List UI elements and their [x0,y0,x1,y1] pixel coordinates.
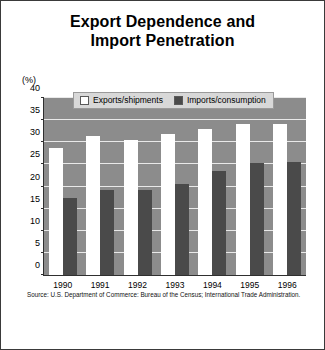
bar-group: 1994 [194,98,231,275]
bar-exports [273,124,287,275]
x-axis-tick-label: 1994 [203,280,222,290]
bar-imports [175,184,189,275]
white-square-icon [80,96,89,105]
legend-item-exports: Exports/shipments [80,95,163,105]
chart-figure: Export Dependence and Import Penetration… [0,0,325,350]
bar-imports [287,162,301,275]
plot-area: 0510152025303540 19901991199219931994199… [43,98,306,276]
bar-imports [100,190,114,275]
y-axis-tick-label: 25 [30,149,40,159]
y-axis-tick-label: 10 [30,216,40,226]
bar-groups: 1990199119921993199419951996 [44,98,306,275]
bar-group: 1990 [44,98,81,275]
y-axis-tick-label: 20 [30,172,40,182]
title-line-1: Export Dependence and [1,12,324,31]
x-axis-tick-label: 1992 [128,280,147,290]
bar-exports [86,136,100,275]
chart-title: Export Dependence and Import Penetration [1,1,324,50]
y-axis-tick-label: 15 [30,194,40,204]
bar-exports [161,134,175,275]
source-note: Source: U.S. Department of Commerce: Bur… [27,291,300,298]
bar-imports [63,198,77,275]
title-line-2: Import Penetration [1,31,324,50]
x-axis-tick-label: 1993 [166,280,185,290]
dark-square-icon [174,96,183,105]
bar-group: 1991 [81,98,118,275]
chart-legend: Exports/shipments Imports/consumption [73,92,274,109]
legend-label-exports: Exports/shipments [93,95,163,105]
bar-imports [138,190,152,275]
bar-group: 1992 [119,98,156,275]
bar-group: 1995 [231,98,268,275]
bar-exports [198,129,212,275]
x-axis-tick-label: 1991 [91,280,110,290]
y-axis-tick-label: 5 [35,238,40,248]
legend-item-imports: Imports/consumption [174,95,266,105]
y-axis-tick-label: 0 [35,260,40,270]
bar-imports [250,163,264,275]
x-axis-tick-label: 1996 [278,280,297,290]
x-axis-tick-label: 1990 [53,280,72,290]
bar-exports [49,148,63,275]
y-axis-tick-label: 40 [30,83,40,93]
bar-exports [236,124,250,275]
bar-imports [212,171,226,275]
bar-group: 1993 [156,98,193,275]
y-axis-tick-label: 30 [30,127,40,137]
y-axis-tick-label: 35 [30,105,40,115]
x-axis-tick-label: 1995 [240,280,259,290]
bar-exports [124,140,138,275]
legend-label-imports: Imports/consumption [187,95,266,105]
bar-group: 1996 [269,98,306,275]
